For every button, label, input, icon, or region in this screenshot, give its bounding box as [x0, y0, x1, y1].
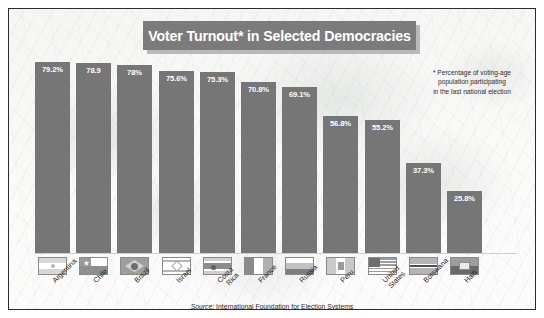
bar: 25.8%: [447, 191, 482, 253]
bar-column: 25.8%: [447, 191, 482, 253]
page-title: Voter Turnout* in Selected Democracies: [148, 28, 411, 44]
bar-value-label: 55.2%: [365, 123, 400, 132]
bar-value-label: 25.8%: [447, 194, 482, 203]
bar-value-label: 75.6%: [159, 74, 194, 83]
star-icon: [84, 260, 90, 266]
bar-column: 69.1%: [282, 87, 317, 254]
bar-column: 75.6%: [159, 71, 194, 253]
bar: 79.2%: [35, 62, 70, 253]
bar-column: 78.9: [76, 63, 111, 253]
bar: 78.9: [76, 63, 111, 253]
bar: 75.6%: [159, 71, 194, 253]
bar: 37.3%: [406, 163, 441, 253]
bar: 70.8%: [241, 82, 276, 253]
star-icon: [171, 260, 182, 271]
bar-column: 56.8%: [323, 116, 358, 253]
chart-page: Voter Turnout* in Selected Democracies *…: [0, 0, 544, 318]
bar-value-label: 37.3%: [406, 166, 441, 175]
source-prefix: Source:: [191, 303, 214, 310]
bar-value-label: 78%: [117, 68, 152, 77]
bar-value-label: 79.2%: [35, 65, 70, 74]
bar: 78%: [117, 65, 152, 253]
bar: 69.1%: [282, 87, 317, 254]
bar-value-label: 70.8%: [241, 85, 276, 94]
bar-column: 70.8%: [241, 82, 276, 253]
bar-column: 37.3%: [406, 163, 441, 253]
source-text: International Foundation for Election Sy…: [216, 303, 353, 310]
bar: 75.3%: [200, 72, 235, 253]
bar-column: 78%: [117, 65, 152, 253]
bar-column: 75.3%: [200, 72, 235, 253]
bar-value-label: 78.9: [76, 66, 111, 75]
bar-value-label: 56.8%: [323, 119, 358, 128]
bar-value-label: 75.3%: [200, 75, 235, 84]
chart-frame: Voter Turnout* in Selected Democracies *…: [8, 8, 536, 310]
bar: 55.2%: [365, 120, 400, 253]
bar-plot-area: 79.2%78.978%75.6%75.3%70.8%69.1%56.8%55.…: [35, 53, 517, 253]
bar: 56.8%: [323, 116, 358, 253]
x-axis-line: [35, 253, 517, 254]
bar-value-label: 69.1%: [282, 90, 317, 99]
bar-column: 79.2%: [35, 62, 70, 253]
bar-column: 55.2%: [365, 120, 400, 253]
source-note: Source: International Foundation for Ele…: [9, 303, 535, 310]
title-banner: Voter Turnout* in Selected Democracies: [143, 21, 416, 50]
